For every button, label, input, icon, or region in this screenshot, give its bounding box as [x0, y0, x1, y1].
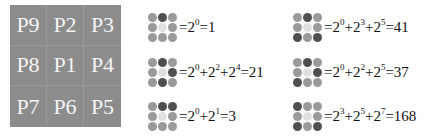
dot-p7: [148, 122, 157, 131]
dot-p9: [148, 58, 157, 67]
dot-p5: [168, 33, 177, 42]
dot-p3: [313, 102, 322, 111]
dot-p9: [148, 102, 157, 111]
dot-p1: [303, 112, 312, 121]
dot-p8: [293, 68, 302, 77]
dot-p8: [293, 23, 302, 32]
pixel-neighborhood-grid: P9 P2 P3 P8 P1 P4 P7 P6 P5: [10, 5, 121, 127]
dot-p8: [293, 112, 302, 121]
dot-p7: [293, 33, 302, 42]
grid-cell-p5: P5: [84, 86, 121, 127]
dot-p6: [303, 78, 312, 87]
dot-p2: [303, 13, 312, 22]
dot-p5: [313, 78, 322, 87]
dot-pattern-icon: [148, 13, 177, 42]
dot-p4: [313, 112, 322, 121]
dot-p1: [158, 68, 167, 77]
equation: =20+23+25=41: [324, 19, 409, 36]
dot-p8: [148, 112, 157, 121]
dot-p3: [168, 13, 177, 22]
dot-p5: [168, 122, 177, 131]
dot-p2: [303, 102, 312, 111]
dot-p3: [313, 13, 322, 22]
dot-pattern-icon: [148, 102, 177, 131]
example-2: =20+22+24=21: [148, 58, 264, 87]
dot-p4: [168, 23, 177, 32]
example-3: =20+21=3: [148, 102, 236, 131]
dot-p2: [303, 58, 312, 67]
dot-p4: [313, 68, 322, 77]
dot-p1: [158, 112, 167, 121]
dot-p1: [303, 68, 312, 77]
dot-p9: [148, 13, 157, 22]
dot-p7: [293, 122, 302, 131]
dot-p6: [303, 33, 312, 42]
example-6: =23+25+27=168: [293, 102, 416, 131]
dot-pattern-icon: [148, 58, 177, 87]
dot-p3: [168, 58, 177, 67]
dot-p5: [313, 33, 322, 42]
dot-p5: [168, 78, 177, 87]
dot-p7: [148, 78, 157, 87]
example-1: =20=1: [148, 13, 215, 42]
grid-cell-p2: P2: [47, 5, 84, 46]
dot-p2: [158, 102, 167, 111]
example-4: =20+23+25=41: [293, 13, 409, 42]
grid-cell-p4: P4: [84, 46, 121, 87]
equation: =20=1: [179, 19, 215, 36]
dot-p7: [148, 33, 157, 42]
dot-p2: [158, 13, 167, 22]
dot-p1: [303, 23, 312, 32]
dot-p6: [158, 33, 167, 42]
dot-p3: [313, 58, 322, 67]
dot-p9: [293, 102, 302, 111]
dot-p9: [293, 13, 302, 22]
grid-cell-p3: P3: [84, 5, 121, 46]
dot-p7: [293, 78, 302, 87]
dot-p5: [313, 122, 322, 131]
grid-cell-p1: P1: [47, 46, 84, 87]
dot-p2: [158, 58, 167, 67]
dot-p6: [158, 122, 167, 131]
equation: =20+21=3: [179, 108, 236, 125]
grid-cell-p6: P6: [47, 86, 84, 127]
dot-p4: [168, 112, 177, 121]
grid-cell-p7: P7: [10, 86, 47, 127]
dot-pattern-icon: [293, 13, 322, 42]
dot-p1: [158, 23, 167, 32]
equation: =20+22+24=21: [179, 64, 264, 81]
grid-cell-p9: P9: [10, 5, 47, 46]
dot-p8: [148, 68, 157, 77]
dot-p9: [293, 58, 302, 67]
equation: =20+22+25=37: [324, 64, 409, 81]
example-5: =20+22+25=37: [293, 58, 409, 87]
dot-p6: [158, 78, 167, 87]
dot-pattern-icon: [293, 102, 322, 131]
dot-p4: [168, 68, 177, 77]
dot-p6: [303, 122, 312, 131]
equation: =23+25+27=168: [324, 108, 416, 125]
grid-cell-p8: P8: [10, 46, 47, 87]
dot-p3: [168, 102, 177, 111]
dot-pattern-icon: [293, 58, 322, 87]
dot-p4: [313, 23, 322, 32]
dot-p8: [148, 23, 157, 32]
